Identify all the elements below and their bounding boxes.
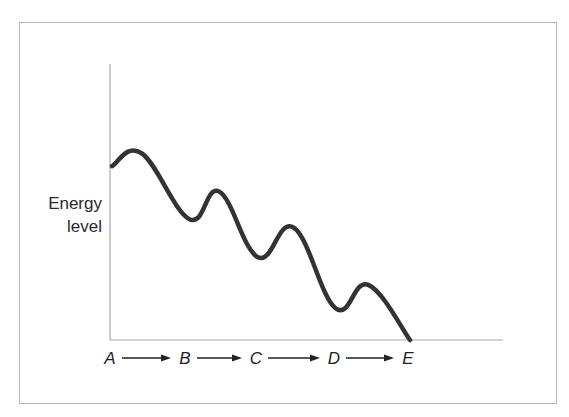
stage-label-b: B: [179, 349, 190, 368]
y-axis-label-line-1: Energy: [48, 194, 102, 213]
arrow-icon: [197, 355, 242, 362]
stage-label-a: A: [103, 349, 115, 368]
energy-curve: [112, 150, 410, 340]
arrow-icon: [346, 355, 394, 362]
energy-level-diagram: Energy level ABCDE: [0, 0, 569, 417]
y-axis-label-line-2: level: [67, 217, 102, 236]
arrow-icon: [122, 355, 171, 362]
stage-label-d: D: [328, 349, 340, 368]
stage-label-e: E: [402, 349, 414, 368]
stage-label-c: C: [250, 349, 263, 368]
arrow-icon: [268, 355, 320, 362]
